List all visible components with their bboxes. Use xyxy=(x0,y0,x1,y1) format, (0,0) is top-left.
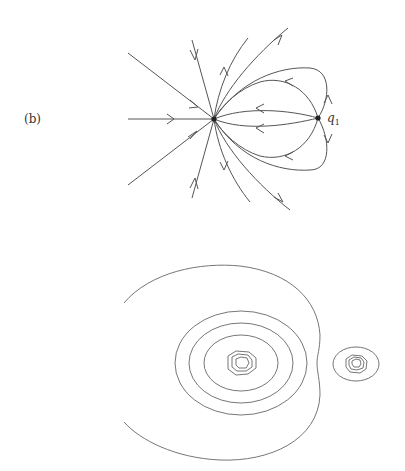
contour-plot xyxy=(124,265,379,460)
trajectory-upper-left xyxy=(128,53,214,119)
island-contour-4 xyxy=(352,359,361,367)
arrow-icon xyxy=(256,124,264,133)
contour-level-3 xyxy=(204,335,278,391)
connection-lower xyxy=(214,118,318,126)
trajectory-down xyxy=(192,119,214,198)
arrow-icon xyxy=(256,104,264,113)
contour-level-1 xyxy=(175,311,307,415)
phase-portrait xyxy=(128,28,332,210)
contour-level-6 xyxy=(236,357,249,368)
q1-node xyxy=(315,115,320,120)
island-contour-1 xyxy=(333,347,379,381)
arrow-icon xyxy=(285,78,293,86)
trajectory-lower-2 xyxy=(214,119,290,210)
arrow-icon xyxy=(220,161,228,170)
trajectory-lower-left xyxy=(128,119,214,185)
loop-outer-upper xyxy=(214,68,327,119)
contour-outer-open xyxy=(124,265,320,460)
figure-canvas xyxy=(0,0,405,471)
arrow-icon xyxy=(285,152,293,160)
attractor-node xyxy=(211,116,216,121)
connection-upper xyxy=(214,111,318,119)
